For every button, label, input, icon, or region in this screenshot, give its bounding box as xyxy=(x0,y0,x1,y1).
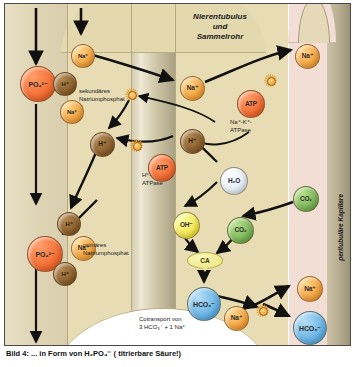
molecule-na-cotransport: Na⁺ xyxy=(224,306,249,331)
molecule-hco3-capillary: HCO₃⁻ xyxy=(293,311,327,345)
molecule-h-secondary: H⁺ xyxy=(53,72,77,96)
molecule-h-cell-right: H⁺ xyxy=(180,129,205,154)
molecule-po4-secondary: PO₄²⁻ xyxy=(20,66,56,102)
molecule-co2-cell: CO₂ xyxy=(227,217,254,244)
molecule-na-cell: Na⁺ xyxy=(180,76,205,101)
figure-caption: Bild 4: ... in Form von H₂PO₄⁻ ( titrier… xyxy=(6,349,351,358)
label-na-k-atpase: Na⁺-K⁺- ATPase xyxy=(230,119,252,134)
label-peritubular-capillary: peritubuläre Kapillare xyxy=(337,194,344,261)
molecule-h-cell-left: H⁺ xyxy=(90,132,115,157)
molecule-na-capillary-bot: Na⁺ xyxy=(297,276,323,302)
label-secondary-sodium-phosphate: sekundäres Natriumphosphat xyxy=(79,88,125,103)
molecule-na-capillary-top: Na⁺ xyxy=(295,44,320,69)
carbonic-anhydrase-enzyme: CA xyxy=(187,252,223,269)
molecule-h2o: H₂O xyxy=(220,167,248,195)
transporter-h-atpase-icon xyxy=(130,139,143,152)
label-primary-sodium-phosphate: primäres Natriumphosphat xyxy=(83,242,129,257)
molecule-co2-capillary: CO₂ xyxy=(293,186,319,212)
molecule-oh: OH⁻ xyxy=(173,212,200,239)
transporter-apical-upper-icon xyxy=(125,88,138,101)
molecule-na-lumen-mid: Na⁺ xyxy=(60,100,84,124)
transporter-na-k-atpase-icon xyxy=(264,74,277,87)
label-cotransport: Cotransport von 3 HCO₃⁻ + 1 Na⁺ xyxy=(139,316,185,331)
molecule-hco3-cell: HCO₃⁻ xyxy=(187,287,221,321)
kidney-tubule-diagram: CA Na⁺PO₄²⁻H⁺Na⁺Na⁺Na⁺ATPH⁺H⁺ATPH₂OCO₂H⁺… xyxy=(0,0,353,367)
molecule-h-primary: H⁺ xyxy=(53,262,77,286)
transporter-basolateral-icon xyxy=(256,304,269,317)
molecule-na-lumen-top: Na⁺ xyxy=(71,44,95,68)
molecule-atp-nak: ATP xyxy=(237,90,265,118)
label-h-atpase: H⁺- ATPase xyxy=(142,172,163,187)
illustration-frame: CA Na⁺PO₄²⁻H⁺Na⁺Na⁺Na⁺ATPH⁺H⁺ATPH₂OCO₂H⁺… xyxy=(4,3,351,346)
figure-title: Nierentubulus und Sammelrohr xyxy=(165,12,275,42)
molecule-h-apical-lower: H⁺ xyxy=(57,212,81,236)
